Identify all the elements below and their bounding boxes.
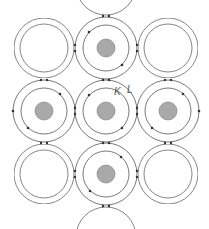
partial-atom-top-left xyxy=(14,18,74,78)
k-shell-label: K xyxy=(114,86,122,97)
partial-atom-top-right xyxy=(138,18,198,78)
atom-top xyxy=(75,17,137,79)
partial-atom-top xyxy=(76,0,136,15)
atom-right xyxy=(137,80,200,142)
partial-atom-bottom-left xyxy=(14,144,74,204)
atom-left xyxy=(12,80,75,142)
atom-lattice-diagram: K L xyxy=(0,0,209,229)
atom-bottom xyxy=(75,143,137,205)
nucleus xyxy=(97,39,115,57)
partial-atom-bottom xyxy=(76,207,136,229)
partial-atom-bottom-right xyxy=(138,144,198,204)
electron xyxy=(121,64,124,67)
electron xyxy=(88,31,91,34)
l-shell-label: L xyxy=(127,84,133,95)
